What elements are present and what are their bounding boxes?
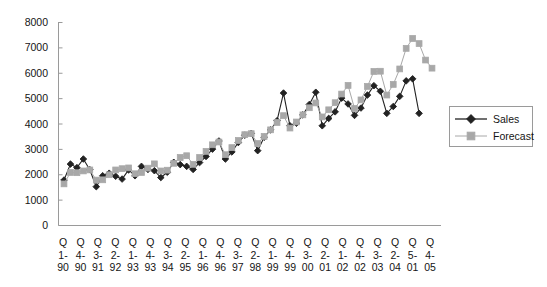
- x-axis-tick-label-part: 4-: [422, 249, 438, 262]
- x-axis-tick-label: Q4-90: [72, 236, 88, 274]
- data-point-diamond: [138, 163, 145, 170]
- x-axis-tick-label-part: 4-: [72, 249, 88, 262]
- data-point-square: [300, 112, 306, 118]
- data-point-diamond: [416, 110, 423, 117]
- x-axis-tick-label-part: Q: [335, 236, 351, 249]
- x-axis-tick-label-part: Q: [107, 236, 123, 249]
- x-axis-tick-label-part: 95: [177, 261, 193, 274]
- x-axis-tick-label-part: 4-: [352, 249, 368, 262]
- data-point-diamond: [254, 147, 261, 154]
- x-axis-tick-label-part: 2-: [247, 249, 263, 262]
- data-point-square: [268, 127, 274, 133]
- x-axis-tick-label-part: Q: [300, 236, 316, 249]
- y-axis-tick-label: 2000: [8, 169, 48, 179]
- x-axis-tick-label-part: Q: [55, 236, 71, 249]
- x-axis-tick-label-part: Q: [387, 236, 403, 249]
- x-axis-tick-label-part: Q: [370, 236, 386, 249]
- x-axis-tick-label: Q4-93: [142, 236, 158, 274]
- data-point-square: [306, 105, 312, 111]
- legend-marker-glyph: [453, 111, 491, 127]
- x-axis-tick-label: Q2-98: [247, 236, 263, 274]
- x-axis-tick-label: Q1-02: [335, 236, 351, 274]
- x-axis-tick-label-part: Q: [90, 236, 106, 249]
- data-point-square: [93, 177, 99, 183]
- y-axis-tick-label: 0: [8, 220, 48, 230]
- data-point-square: [87, 167, 93, 173]
- x-axis-tick-label-part: 93: [125, 261, 141, 274]
- data-point-square: [171, 160, 177, 166]
- x-axis-tick-label-part: 02: [335, 261, 351, 274]
- y-axis-tick-label: 6000: [8, 68, 48, 78]
- data-point-square: [371, 69, 377, 75]
- square-marker: [453, 128, 491, 144]
- data-point-diamond: [409, 76, 416, 83]
- data-point-square: [416, 41, 422, 47]
- data-point-square: [429, 65, 435, 71]
- data-point-diamond: [183, 163, 190, 170]
- data-point-square: [184, 153, 190, 159]
- x-axis-tick-label: Q4-96: [212, 236, 228, 274]
- data-point-square: [80, 168, 86, 174]
- data-point-square: [139, 170, 145, 176]
- x-axis-tick-label-part: 90: [55, 261, 71, 274]
- chart-legend: SalesForecast: [449, 106, 533, 147]
- data-point-square: [313, 100, 319, 106]
- x-axis-tick-label-part: 5-: [405, 249, 421, 262]
- data-point-square: [210, 142, 216, 148]
- data-point-diamond: [403, 78, 410, 85]
- data-point-diamond: [364, 92, 371, 99]
- data-point-diamond: [177, 161, 184, 168]
- x-axis-tick-label-part: 2-: [107, 249, 123, 262]
- data-point-square: [281, 113, 287, 119]
- data-point-square: [319, 114, 325, 120]
- data-point-square: [242, 132, 248, 138]
- x-axis-tick-label: Q1-99: [265, 236, 281, 274]
- x-axis-tick-label-part: 03: [370, 261, 386, 274]
- data-point-diamond: [119, 176, 126, 183]
- y-axis-tick-label: 8000: [8, 17, 48, 27]
- data-point-square: [403, 45, 409, 51]
- data-point-square: [248, 131, 254, 137]
- data-point-diamond: [67, 161, 74, 168]
- y-axis-tick-label: 1000: [8, 195, 48, 205]
- x-axis-tick-label: Q3-94: [160, 236, 176, 274]
- x-axis-tick-label-part: Q: [212, 236, 228, 249]
- x-axis-tick-label-part: 98: [247, 261, 263, 274]
- x-axis-tick-label-part: Q: [422, 236, 438, 249]
- x-axis-tick-label-part: Q: [317, 236, 333, 249]
- x-axis-tick-label-part: 3-: [300, 249, 316, 262]
- x-axis-tick-label-part: 94: [160, 261, 176, 274]
- x-axis-tick-label-part: 3-: [90, 249, 106, 262]
- data-point-square: [190, 161, 196, 167]
- data-point-square: [145, 165, 151, 171]
- x-axis-tick-label: Q2-92: [107, 236, 123, 274]
- x-axis-tick-label-part: 2-: [317, 249, 333, 262]
- x-axis-tick-label-part: 91: [90, 261, 106, 274]
- x-axis-tick-label-part: 1-: [195, 249, 211, 262]
- x-axis-tick-label-part: 2-: [387, 249, 403, 262]
- x-axis-tick-label-part: 1-: [265, 249, 281, 262]
- data-point-square: [235, 138, 241, 144]
- series-forecast: [61, 36, 435, 187]
- data-point-square: [74, 170, 80, 176]
- data-point-square: [216, 139, 222, 145]
- x-axis-tick-label: Q3-03: [370, 236, 386, 274]
- data-point-square: [100, 177, 106, 183]
- x-axis-tick-label-part: Q: [142, 236, 158, 249]
- x-axis-tick-label: Q1-93: [125, 236, 141, 274]
- x-axis-tick-label-part: 01: [317, 261, 333, 274]
- x-axis-tick-label-part: 1-: [335, 249, 351, 262]
- legend-marker-glyph: [453, 128, 491, 144]
- data-point-square: [177, 155, 183, 161]
- data-point-square: [151, 161, 157, 167]
- y-axis-tick-label: 7000: [8, 42, 48, 52]
- data-point-square: [68, 170, 74, 176]
- x-axis-tick-label-part: Q: [160, 236, 176, 249]
- legend-label: Forecast: [493, 129, 534, 143]
- x-axis-tick-label: Q5-01: [405, 236, 421, 274]
- data-point-square: [423, 57, 429, 63]
- x-axis-tick-label: Q1-90: [55, 236, 71, 274]
- x-axis-tick-label-part: 4-: [212, 249, 228, 262]
- legend-item-sales: Sales: [453, 111, 531, 127]
- legend-label: Sales: [493, 112, 519, 126]
